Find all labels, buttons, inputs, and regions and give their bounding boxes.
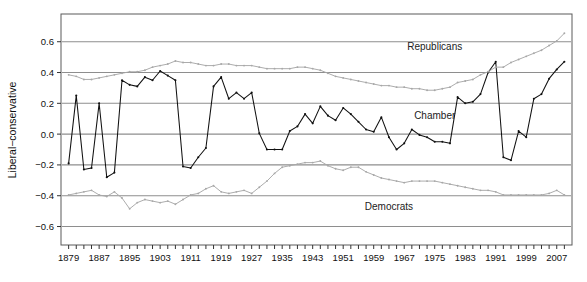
data-point: [190, 194, 192, 196]
data-point: [144, 76, 146, 78]
data-point: [182, 199, 184, 201]
data-point: [434, 141, 436, 143]
series-democrats: [68, 160, 566, 210]
x-tick-label-11: 1967: [394, 252, 415, 263]
data-point: [487, 71, 489, 73]
x-tick-label-14: 1991: [485, 252, 506, 263]
data-point: [388, 136, 390, 138]
series-line-chamber: [69, 62, 565, 178]
data-point: [251, 65, 253, 67]
data-point: [68, 162, 70, 164]
data-point: [472, 101, 474, 103]
data-point: [129, 84, 131, 86]
plot-frame: [61, 14, 572, 245]
x-tick-label-8: 1943: [302, 252, 323, 263]
data-point: [83, 79, 85, 81]
data-point: [90, 167, 92, 169]
data-point: [388, 85, 390, 87]
data-point: [380, 116, 382, 118]
data-point: [304, 113, 306, 115]
x-tick-label-9: 1951: [333, 252, 354, 263]
data-point: [98, 77, 100, 79]
data-point: [327, 165, 329, 167]
data-point: [213, 185, 215, 187]
data-point: [449, 86, 451, 88]
data-point: [235, 91, 237, 93]
data-point: [91, 79, 93, 81]
data-point: [350, 79, 352, 81]
data-point: [304, 66, 306, 68]
data-point: [510, 194, 512, 196]
x-tick-label-13: 1983: [455, 252, 476, 263]
data-point: [266, 180, 268, 182]
data-point: [335, 168, 337, 170]
data-point: [274, 148, 276, 150]
data-point: [510, 62, 512, 64]
data-point: [113, 74, 115, 76]
data-point: [197, 192, 199, 194]
data-point: [296, 66, 298, 68]
data-point: [365, 171, 367, 173]
series-chamber: [68, 61, 566, 179]
data-point: [396, 148, 398, 150]
data-point: [228, 192, 230, 194]
data-point: [411, 180, 413, 182]
y-tick-label-4: 0.2: [41, 98, 54, 109]
data-point: [75, 192, 77, 194]
data-point: [228, 63, 230, 65]
x-tick-label-4: 1911: [180, 252, 200, 263]
data-point: [68, 74, 70, 76]
data-point: [289, 68, 291, 70]
data-point: [121, 72, 123, 74]
data-point: [182, 165, 184, 167]
data-point: [396, 86, 398, 88]
data-point: [502, 66, 504, 68]
data-point: [205, 188, 207, 190]
data-point: [159, 70, 161, 72]
data-point: [495, 61, 497, 63]
data-point: [556, 40, 558, 42]
data-point: [457, 96, 459, 98]
data-point: [312, 68, 314, 70]
data-point: [480, 74, 482, 76]
data-point: [136, 71, 138, 73]
data-point: [319, 160, 321, 162]
data-point: [121, 197, 123, 199]
x-tick-label-15: 1999: [516, 252, 537, 263]
data-point: [235, 191, 237, 193]
data-point: [388, 179, 390, 181]
data-point: [152, 66, 154, 68]
data-point: [190, 62, 192, 64]
line-chart-svg: −0.6−0.4−0.20.00.20.40.6 187918871895190…: [0, 0, 587, 282]
data-point: [159, 202, 161, 204]
data-point: [350, 166, 352, 168]
annotation-layer: RepublicansChamberDemocrats: [365, 41, 462, 212]
data-point: [136, 85, 138, 87]
data-point: [563, 32, 565, 34]
data-point: [449, 142, 451, 144]
data-point: [312, 122, 314, 124]
data-point: [434, 89, 436, 91]
data-point: [98, 194, 100, 196]
y-tick-label-3: 0.0: [41, 129, 54, 140]
data-point: [312, 162, 314, 164]
data-point: [213, 65, 215, 67]
data-point: [365, 82, 367, 84]
data-point: [563, 61, 565, 63]
x-tick-label-16: 2007: [546, 252, 567, 263]
data-point: [251, 192, 253, 194]
data-point: [411, 128, 413, 130]
data-point: [151, 79, 153, 81]
data-point: [75, 75, 77, 77]
data-point: [518, 58, 520, 60]
chart-container: −0.6−0.4−0.20.00.20.40.6 187918871895190…: [0, 0, 587, 282]
data-point: [205, 147, 207, 149]
data-point: [449, 183, 451, 185]
data-point: [258, 186, 260, 188]
data-point: [266, 68, 268, 70]
data-point: [563, 194, 565, 196]
data-point: [182, 62, 184, 64]
y-tick-label-6: 0.6: [41, 36, 54, 47]
data-point: [434, 180, 436, 182]
x-tick-label-1: 1887: [89, 252, 110, 263]
